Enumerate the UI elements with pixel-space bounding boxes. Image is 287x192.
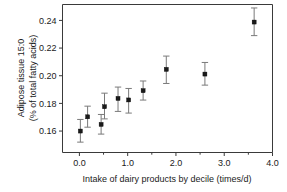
x-tick-label: 2.0 xyxy=(170,158,183,168)
x-tick-label: 1.0 xyxy=(121,158,134,168)
y-axis-label-line2: (% of total fatty acids) xyxy=(28,35,38,122)
y-tick-label: 0.24 xyxy=(39,16,57,26)
data-marker xyxy=(203,72,207,76)
x-axis-label: Intake of dairy products by decile (time… xyxy=(82,174,251,184)
scatter-plot-svg: 0.160.180.200.220.24 0.01.02.03.04.0 Adi… xyxy=(0,0,287,192)
y-axis-label-line1: Adipose tissue 15:0 xyxy=(16,39,26,118)
data-marker xyxy=(103,105,107,109)
data-marker xyxy=(116,96,120,100)
data-marker xyxy=(164,67,168,71)
y-tick-label: 0.20 xyxy=(39,71,57,81)
y-tick-label: 0.22 xyxy=(39,43,57,53)
data-marker xyxy=(86,115,90,119)
y-tick-label: 0.18 xyxy=(39,99,57,109)
x-tick-label: 0.0 xyxy=(73,158,86,168)
x-tick-label: 3.0 xyxy=(218,158,231,168)
data-marker xyxy=(99,122,103,126)
data-marker xyxy=(78,129,82,133)
chart-figure: 0.160.180.200.220.24 0.01.02.03.04.0 Adi… xyxy=(0,0,287,192)
data-marker xyxy=(252,20,256,24)
x-tick-label: 4.0 xyxy=(266,158,279,168)
data-marker xyxy=(141,89,145,93)
y-tick-label: 0.16 xyxy=(39,126,57,136)
data-marker xyxy=(127,98,131,102)
